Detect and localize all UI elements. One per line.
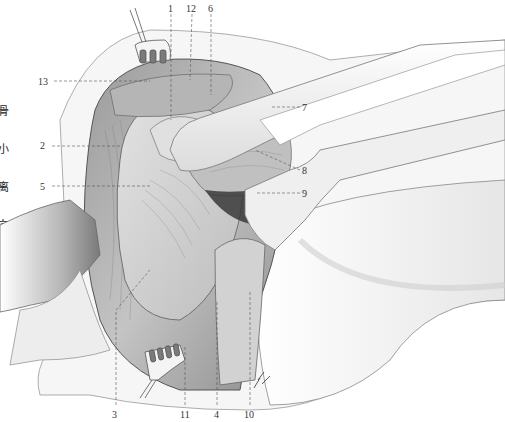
label-6: 6 — [208, 4, 213, 14]
anatomical-figure: 骨 小 离 向 有 — [0, 0, 505, 422]
label-4: 4 — [214, 410, 219, 420]
label-12: 12 — [186, 4, 196, 14]
label-11: 11 — [180, 410, 190, 420]
label-9: 9 — [302, 189, 307, 199]
label-5: 5 — [40, 182, 45, 192]
label-13: 13 — [38, 77, 48, 87]
label-1: 1 — [168, 4, 173, 14]
label-3: 3 — [112, 410, 117, 420]
surgical-illustration — [0, 0, 505, 422]
label-2: 2 — [40, 141, 45, 151]
label-10: 10 — [244, 410, 254, 420]
label-7: 7 — [302, 103, 307, 113]
label-8: 8 — [302, 166, 307, 176]
